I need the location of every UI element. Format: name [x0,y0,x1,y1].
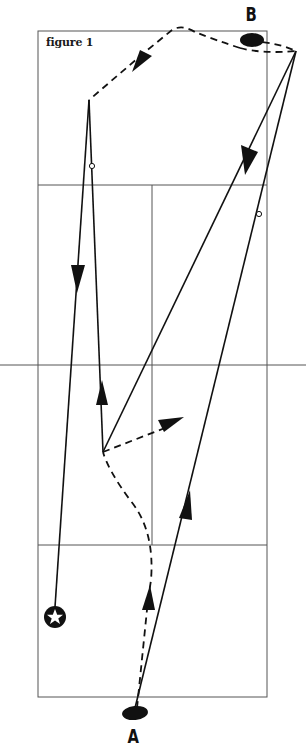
court-diagram [0,0,306,751]
player-a-label: A [128,725,139,747]
solid-paths [55,51,296,708]
court-lines [0,31,306,697]
target-star-icon [44,606,66,628]
dashed-paths [89,27,296,708]
arrow-down-left-lane-icon [71,265,85,293]
shot-a-to-corner [135,51,296,708]
player-a-marker [121,705,148,722]
bounce-marker [89,163,94,168]
arrowheads [71,50,258,610]
arrow-up-a-icon [179,490,192,520]
shot-left-to-star [55,100,89,607]
run-b-top-to-left [89,27,240,100]
player-b-label: B [246,3,257,25]
bounce-marker [256,211,261,216]
arrow-down-left-icon [241,145,258,175]
player-b-marker [240,33,264,47]
arrow-up-pivot-icon [96,380,108,405]
figure-caption: figure 1 [46,36,93,49]
